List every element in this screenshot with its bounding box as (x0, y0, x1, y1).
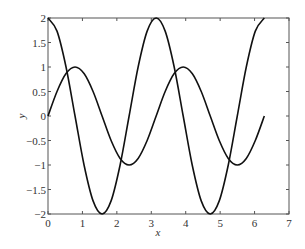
line-chart: 01234567 −2−1.5−1−0.500.511.52 x y (0, 0, 305, 249)
x-tick-label: 6 (252, 217, 258, 229)
x-axis-label: x (155, 226, 161, 238)
y-tick-label: 0 (41, 110, 47, 122)
y-tick-label: −1 (34, 159, 46, 171)
y-tick-label: −2 (34, 208, 46, 220)
y-axis-label: y (15, 113, 27, 119)
x-tick-label: 5 (217, 217, 223, 229)
y-tick-label: 1.5 (32, 37, 46, 49)
y-tick-label: 0.5 (32, 86, 46, 98)
x-tick-label: 1 (80, 217, 86, 229)
axes-box (48, 18, 289, 214)
y-tick-label: 1 (41, 61, 47, 73)
y-tick-label: −1.5 (26, 184, 46, 196)
x-tick-label: 4 (183, 217, 189, 229)
x-tick-label: 2 (114, 217, 120, 229)
plot-area (48, 18, 289, 214)
x-tick-label: 0 (45, 217, 51, 229)
x-tick-label: 3 (149, 217, 155, 229)
y-tick-label: 2 (41, 12, 47, 24)
x-tick-label: 7 (286, 217, 292, 229)
y-tick-label: −0.5 (26, 135, 46, 147)
